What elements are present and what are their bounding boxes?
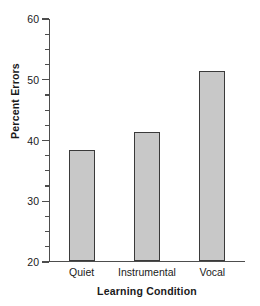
y-axis-minor-tick (45, 231, 49, 232)
y-axis-minor-tick (45, 155, 49, 156)
y-axis-tick-label: 40 (27, 135, 39, 146)
plot-area: 2030405060 (49, 19, 245, 262)
y-axis-minor-tick (45, 246, 49, 247)
bar (199, 71, 225, 260)
y-axis-tick-label: 50 (27, 75, 39, 86)
y-axis-title: Percent Errors (9, 41, 21, 161)
y-axis-tick-label: 20 (27, 257, 39, 268)
y-axis-tick-label: 30 (27, 196, 39, 207)
x-axis-title: Learning Condition (49, 285, 245, 297)
y-axis-major-tick (42, 261, 49, 262)
y-axis-line (49, 19, 50, 262)
x-axis-tick-label: Quiet (69, 266, 94, 278)
x-axis-tick-label: Vocal (199, 266, 225, 278)
y-axis-major-tick (42, 140, 49, 141)
x-axis-line (49, 261, 245, 262)
y-axis-major-tick (42, 18, 49, 19)
y-axis-tick-label: 60 (27, 14, 39, 25)
y-axis-major-tick (42, 201, 49, 202)
y-axis-minor-tick (45, 49, 49, 50)
y-axis-minor-tick (45, 94, 49, 95)
y-axis-minor-tick (45, 125, 49, 126)
bar-chart-figure: Percent Errors 2030405060 QuietInstrumen… (0, 0, 260, 306)
y-axis-minor-tick (45, 34, 49, 35)
y-axis-major-tick (42, 79, 49, 80)
y-axis-minor-tick (45, 216, 49, 217)
y-axis-minor-tick (45, 64, 49, 65)
bar (69, 150, 95, 260)
x-axis-tick-label: Instrumental (118, 266, 176, 278)
y-axis-minor-tick (45, 170, 49, 171)
y-axis-minor-tick (45, 110, 49, 111)
bar (134, 132, 160, 261)
y-axis-minor-tick (45, 185, 49, 186)
